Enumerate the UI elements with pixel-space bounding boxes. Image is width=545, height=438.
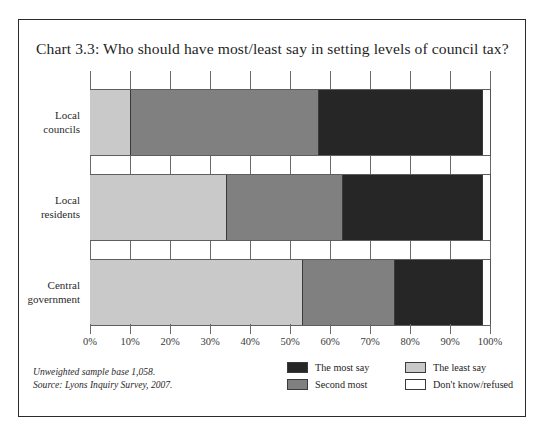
x-tick-label: 20% xyxy=(160,336,179,347)
x-tick-top-20 xyxy=(170,71,171,89)
bar-segment[interactable] xyxy=(342,175,482,240)
bar-row[interactable] xyxy=(90,174,490,241)
x-tick-30 xyxy=(210,324,211,334)
x-tick-60 xyxy=(330,324,331,334)
x-tick-10 xyxy=(130,324,131,334)
x-tick-label: 60% xyxy=(320,336,339,347)
x-tick-label: 70% xyxy=(360,336,379,347)
x-tick-gap xyxy=(210,241,211,259)
legend-swatch xyxy=(405,379,426,390)
bar-segment[interactable] xyxy=(302,260,394,325)
legend-swatch xyxy=(405,362,426,373)
bar-segment[interactable] xyxy=(90,90,130,155)
legend-label: Second most xyxy=(315,379,367,390)
x-tick-70 xyxy=(370,324,371,334)
x-tick-gap xyxy=(370,156,371,174)
bar-segment[interactable] xyxy=(318,90,482,155)
x-tick-label: 80% xyxy=(400,336,419,347)
category-label-line: Central xyxy=(12,279,80,293)
x-tick-label: 100% xyxy=(478,336,503,347)
category-label-line: Local xyxy=(12,194,80,208)
bar-row[interactable] xyxy=(90,89,490,156)
category-label-line: Local xyxy=(12,109,80,123)
x-tick-top-50 xyxy=(290,71,291,89)
x-tick-gap xyxy=(250,241,251,259)
x-tick-gap xyxy=(130,156,131,174)
footnote: Unweighted sample base 1,058. Source: Ly… xyxy=(33,366,173,391)
x-tick-gap xyxy=(450,156,451,174)
x-tick-gap xyxy=(410,241,411,259)
x-tick-top-0 xyxy=(90,71,91,89)
legend-swatch xyxy=(287,379,308,390)
legend-item[interactable]: The most say xyxy=(287,362,369,373)
x-tick-gap xyxy=(170,156,171,174)
footnote-sample-base: Unweighted sample base 1,058. xyxy=(33,366,173,379)
category-label-line: residents xyxy=(12,208,80,222)
x-tick-50 xyxy=(290,324,291,334)
x-tick-gap xyxy=(210,156,211,174)
x-tick-gap xyxy=(170,241,171,259)
bar-segment[interactable] xyxy=(226,175,342,240)
bar-segment[interactable] xyxy=(482,90,490,155)
x-tick-gap xyxy=(90,156,91,174)
legend-label: The most say xyxy=(315,362,369,373)
bar-gap-strip xyxy=(90,156,490,174)
x-tick-gap xyxy=(450,241,451,259)
x-tick-top-30 xyxy=(210,71,211,89)
category-label-line: government xyxy=(12,293,80,307)
bar-segment[interactable] xyxy=(90,260,302,325)
x-tick-gap xyxy=(250,156,251,174)
legend-item[interactable]: The least say xyxy=(405,362,486,373)
category-label: Localresidents xyxy=(12,194,80,221)
x-axis: 0%10%20%30%40%50%60%70%80%90%100% xyxy=(90,324,490,358)
x-tick-top-10 xyxy=(130,71,131,89)
chart-page: Chart 3.3: Who should have most/least sa… xyxy=(0,0,545,438)
legend-item[interactable]: Second most xyxy=(287,379,367,390)
x-tick-label: 40% xyxy=(240,336,259,347)
x-tick-gap xyxy=(490,156,491,174)
x-tick-gap xyxy=(370,241,371,259)
x-tick-gap xyxy=(290,156,291,174)
x-tick-gap xyxy=(490,241,491,259)
bar-gap-strip xyxy=(90,241,490,259)
x-tick-top-70 xyxy=(370,71,371,89)
x-tick-gap xyxy=(330,156,331,174)
x-tick-label: 10% xyxy=(120,336,139,347)
x-tick-gap xyxy=(130,241,131,259)
bar-segment[interactable] xyxy=(394,260,482,325)
x-tick-20 xyxy=(170,324,171,334)
x-tick-top-40 xyxy=(250,71,251,89)
gap-ticks xyxy=(90,156,490,174)
category-label: Localcouncils xyxy=(12,109,80,136)
x-tick-100 xyxy=(490,324,491,334)
x-axis-ticks-top xyxy=(90,71,490,89)
category-label: Centralgovernment xyxy=(12,279,80,306)
gap-ticks xyxy=(90,241,490,259)
legend-swatch xyxy=(287,362,308,373)
x-tick-gap xyxy=(90,241,91,259)
x-tick-90 xyxy=(450,324,451,334)
x-tick-label: 0% xyxy=(83,336,97,347)
legend-label: Don't know/refused xyxy=(433,379,513,390)
x-tick-label: 90% xyxy=(440,336,459,347)
bar-row[interactable] xyxy=(90,259,490,326)
x-tick-label: 30% xyxy=(200,336,219,347)
category-label-line: councils xyxy=(12,123,80,137)
x-tick-40 xyxy=(250,324,251,334)
bar-segment[interactable] xyxy=(482,260,490,325)
x-tick-label: 50% xyxy=(280,336,299,347)
x-tick-top-80 xyxy=(410,71,411,89)
bar-segment[interactable] xyxy=(130,90,318,155)
bar-segment[interactable] xyxy=(90,175,226,240)
x-tick-gap xyxy=(330,241,331,259)
bar-segment[interactable] xyxy=(482,175,490,240)
plot-right-rule xyxy=(490,71,491,324)
legend-label: The least say xyxy=(433,362,486,373)
chart-title: Chart 3.3: Who should have most/least sa… xyxy=(36,40,506,58)
legend-item[interactable]: Don't know/refused xyxy=(405,379,513,390)
x-tick-gap xyxy=(410,156,411,174)
x-tick-top-60 xyxy=(330,71,331,89)
x-tick-0 xyxy=(90,324,91,334)
footnote-source: Source: Lyons Inquiry Survey, 2007. xyxy=(33,379,173,392)
x-tick-top-100 xyxy=(490,71,491,89)
